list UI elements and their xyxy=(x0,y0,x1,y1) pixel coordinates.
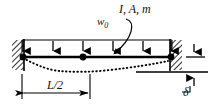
load-subscript: 0 xyxy=(104,21,108,30)
half-span-label: L/2 xyxy=(47,79,63,91)
distributed-load-label: w0 xyxy=(97,16,108,30)
beam-diagram-figure: I, A, m w0 L/2 δ xyxy=(0,0,210,105)
load-label-leader-line xyxy=(115,19,132,53)
settlement-label: δ xyxy=(183,86,189,98)
beam-properties-label: I, A, m xyxy=(119,3,151,15)
deflected-shape-curve xyxy=(23,58,168,72)
load-distribution-bar xyxy=(22,40,172,52)
distributed-load-arrows xyxy=(23,41,171,51)
